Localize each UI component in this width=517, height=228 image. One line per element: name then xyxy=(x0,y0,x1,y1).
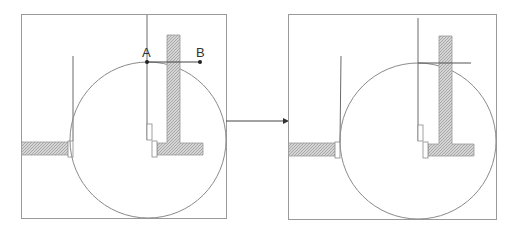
label-b: B xyxy=(196,45,205,60)
label-a: A xyxy=(142,45,151,60)
right-wall-hatch xyxy=(289,143,336,156)
right-wall-plate xyxy=(335,142,340,158)
right-small-plate-1 xyxy=(418,125,423,141)
diagram-canvas: A B xyxy=(0,0,517,228)
right-frame xyxy=(289,15,497,220)
point-a xyxy=(145,60,149,64)
left-panel: A B xyxy=(22,15,227,219)
left-small-plate-2 xyxy=(152,141,157,157)
right-small-plate-2 xyxy=(423,142,428,158)
point-b xyxy=(198,60,202,64)
left-wall-hatch xyxy=(22,142,69,155)
left-small-plate-1 xyxy=(147,124,152,140)
transition-arrow xyxy=(226,118,289,124)
right-panel xyxy=(289,15,497,220)
